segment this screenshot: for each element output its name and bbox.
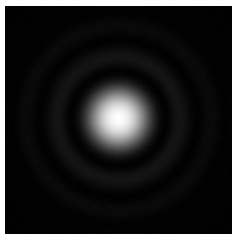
figure-caption-area <box>0 234 238 244</box>
psf-pattern-canvas <box>5 6 232 234</box>
psf-image-frame <box>5 6 232 234</box>
figure-root <box>0 0 238 244</box>
